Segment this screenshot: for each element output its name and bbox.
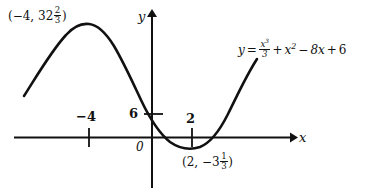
equation-plus-2: + — [327, 43, 337, 57]
local-minimum-close-paren: ) — [228, 155, 233, 169]
local-maximum-coords-prefix: (−4, 32 — [8, 9, 53, 23]
local-maximum-close-paren: ) — [62, 9, 67, 23]
local-minimum-coords-prefix: (2, −3 — [182, 155, 220, 169]
equation-fraction-denominator: 3 — [259, 50, 270, 59]
equation-plus-1: + — [272, 43, 282, 57]
equation-lhs: y — [238, 43, 245, 57]
equation-term-x-squared: x2 — [285, 43, 297, 57]
local-minimum-label: (2, −313) — [182, 152, 233, 171]
equation-fraction: x33 — [259, 40, 270, 59]
equation-label: y=x33+x2−8x+6 — [238, 40, 346, 59]
axis-label-x: x — [299, 131, 306, 144]
axis-label-y: y — [138, 10, 145, 23]
equation-term-6: 6 — [339, 43, 347, 57]
equation-minus: − — [298, 43, 308, 57]
cubic-curve — [24, 24, 257, 149]
local-maximum-label: (−4, 3223) — [8, 6, 67, 25]
x-axis-arrow-icon — [290, 133, 298, 143]
local-minimum-denominator: 3 — [220, 162, 228, 171]
x-tick-label-neg4: −4 — [76, 110, 96, 123]
equation-frac-num-exponent: 3 — [265, 38, 269, 44]
local-maximum-denominator: 3 — [54, 16, 62, 25]
y-axis-arrow-icon — [147, 9, 157, 17]
origin-label: 0 — [136, 141, 144, 153]
y-tick-label-6: 6 — [129, 107, 138, 120]
x-tick-label-2: 2 — [186, 112, 195, 125]
local-maximum-fraction: 23 — [54, 6, 62, 25]
equation-term-x-exponent: 2 — [291, 42, 296, 51]
equation-equals: = — [247, 43, 257, 57]
local-minimum-fraction: 13 — [220, 152, 228, 171]
equation-term-8x: 8x — [310, 43, 324, 57]
